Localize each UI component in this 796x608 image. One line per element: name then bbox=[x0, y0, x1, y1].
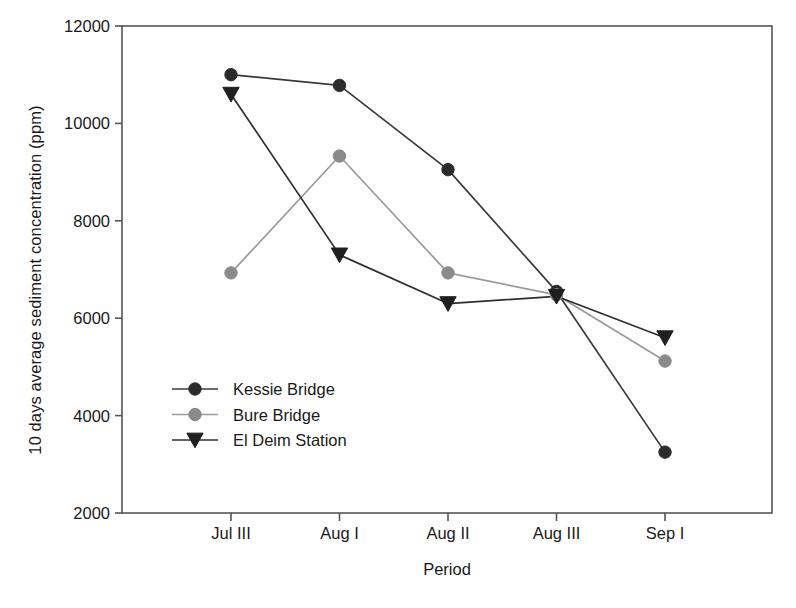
y-axis-title: 10 days average sediment concentration (… bbox=[18, 0, 52, 560]
x-axis-tick-label: Jul III bbox=[176, 524, 286, 543]
legend-marker-kessie-bridge bbox=[189, 383, 201, 395]
data-point-el-deim-station-sep-i bbox=[657, 331, 673, 346]
legend-label-el-deim-station: El Deim Station bbox=[233, 431, 347, 449]
axis-ticks bbox=[115, 26, 665, 521]
y-axis-tick-label-text: 8000 bbox=[38, 212, 110, 231]
y-axis-tick-label-text: 2000 bbox=[38, 504, 110, 523]
data-point-kessie-bridge-aug-i bbox=[333, 79, 345, 91]
y-axis-tick-label-text: 6000 bbox=[38, 309, 110, 328]
legend-item-el-deim-station: El Deim Station bbox=[172, 431, 347, 449]
data-point-kessie-bridge-jul-iii bbox=[225, 69, 237, 81]
x-axis-title: Period bbox=[122, 560, 772, 579]
data-point-bure-bridge-aug-ii bbox=[442, 267, 454, 279]
data-point-bure-bridge-sep-i bbox=[659, 355, 671, 367]
x-axis-tick-label: Aug II bbox=[393, 524, 503, 543]
legend-label-kessie-bridge: Kessie Bridge bbox=[233, 380, 335, 398]
plot-area: Kessie BridgeBure BridgeEl Deim Station bbox=[0, 0, 796, 608]
data-series-group bbox=[223, 69, 673, 459]
y-axis-tick-label-text: 4000 bbox=[38, 407, 110, 426]
y-axis-tick-label-text: 12000 bbox=[38, 17, 110, 36]
data-point-el-deim-station-aug-i bbox=[331, 248, 347, 263]
series-markers-kessie-bridge bbox=[225, 69, 671, 459]
series-markers-el-deim-station bbox=[223, 87, 673, 345]
data-point-bure-bridge-jul-iii bbox=[225, 267, 237, 279]
data-point-kessie-bridge-sep-i bbox=[659, 446, 671, 458]
legend-item-kessie-bridge: Kessie Bridge bbox=[172, 380, 335, 398]
legend-label-bure-bridge: Bure Bridge bbox=[233, 406, 320, 424]
series-line-bure-bridge bbox=[231, 156, 665, 361]
x-axis-tick-label: Aug III bbox=[502, 524, 612, 543]
data-point-kessie-bridge-aug-ii bbox=[442, 163, 454, 175]
x-axis-tick-label: Aug I bbox=[285, 524, 395, 543]
legend-marker-bure-bridge bbox=[189, 408, 201, 420]
series-markers-bure-bridge bbox=[225, 150, 671, 367]
legend: Kessie BridgeBure BridgeEl Deim Station bbox=[172, 380, 347, 449]
sediment-concentration-line-chart: 10 days average sediment concentration (… bbox=[0, 0, 796, 608]
legend-item-bure-bridge: Bure Bridge bbox=[172, 406, 320, 424]
y-axis-tick-label-text: 10000 bbox=[38, 114, 110, 133]
data-point-bure-bridge-aug-i bbox=[333, 150, 345, 162]
x-axis-tick-label: Sep I bbox=[610, 524, 720, 543]
data-point-el-deim-station-jul-iii bbox=[223, 87, 239, 102]
